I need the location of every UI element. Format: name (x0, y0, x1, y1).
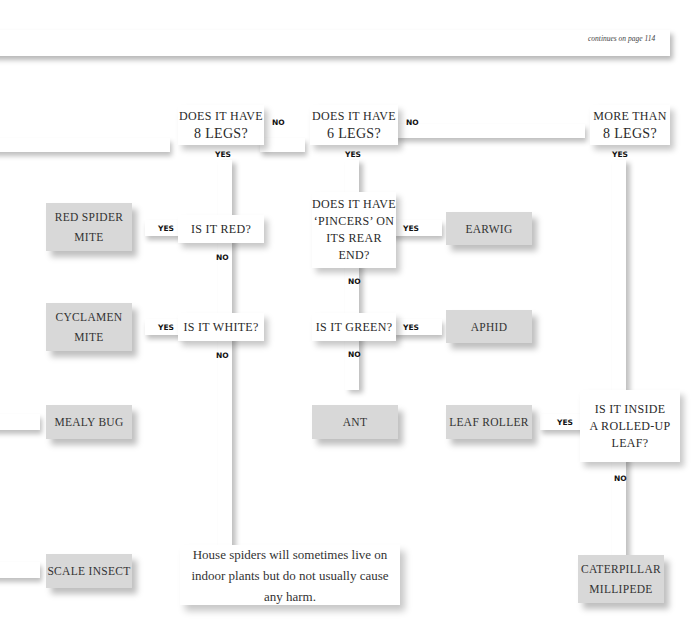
answer-mealy-bug: MEALY BUG (46, 405, 132, 439)
answer-ant: ANT (312, 405, 398, 439)
answer-scale-insect: SCALE INSECT (46, 554, 132, 588)
yes-label-more8: YES (612, 150, 628, 159)
no-label-green: NO (348, 350, 361, 359)
answer-line: RED SPIDER (55, 207, 124, 227)
question-line: END? (338, 247, 369, 264)
no-label-pincers: NO (348, 277, 361, 286)
answer-earwig: EARWIG (446, 212, 532, 245)
answer-line: ANT (343, 412, 368, 432)
question-rolled-up-leaf: IS IT INSIDE A ROLLED-UP LEAF? (580, 390, 680, 462)
house-spider-note: House spiders will sometimes live on ind… (180, 545, 400, 605)
answer-caterpillar-millipede: CATERPILLAR MILLIPEDE (578, 555, 664, 603)
no-label-8legs: NO (272, 118, 285, 127)
question-line: 6 LEGS? (327, 125, 381, 142)
question-line: DOES IT HAVE (179, 108, 263, 125)
question-line: IS IT INSIDE (595, 401, 666, 418)
answer-red-spider-mite: RED SPIDER MITE (46, 203, 132, 251)
no-label-red: NO (216, 253, 229, 262)
answer-line: SCALE INSECT (47, 561, 130, 581)
incoming-connector (0, 138, 170, 152)
no-connector-6legs (395, 124, 585, 138)
question-is-it-white: IS IT WHITE? (178, 313, 264, 341)
question-line: MORE THAN (593, 108, 666, 125)
question-pincers: DOES IT HAVE ‘PINCERS’ ON ITS REAR END? (312, 192, 396, 268)
no-label-6legs: NO (406, 118, 419, 127)
answer-line: EARWIG (465, 219, 512, 239)
answer-line: MEALY BUG (54, 412, 123, 432)
question-line: ‘PINCERS’ ON (314, 213, 394, 230)
answer-cyclamen-mite: CYCLAMEN MITE (46, 303, 132, 351)
question-more-than-8-legs: MORE THAN 8 LEGS? (590, 105, 670, 145)
question-line: IS IT WHITE? (183, 319, 258, 336)
no-label-white: NO (216, 351, 229, 360)
question-line: IS IT GREEN? (316, 319, 393, 336)
yes-label-6legs: YES (345, 150, 361, 159)
question-8-legs: DOES IT HAVE 8 LEGS? (178, 105, 264, 145)
question-line: A ROLLED-UP (590, 418, 671, 435)
yes-label-pincers: YES (403, 224, 419, 233)
answer-line: MITE (74, 227, 103, 247)
question-is-it-green: IS IT GREEN? (312, 313, 396, 341)
continues-note: continues on page 114 (588, 34, 655, 43)
answer-line: MILLIPEDE (589, 579, 652, 599)
question-line: 8 LEGS? (603, 125, 657, 142)
yes-label-8legs: YES (215, 150, 231, 159)
no-label-rolled: NO (614, 474, 627, 483)
answer-line: CYCLAMEN (56, 307, 123, 327)
yes-label-green: YES (403, 323, 419, 332)
question-line: IS IT RED? (191, 221, 251, 238)
question-6-legs: DOES IT HAVE 6 LEGS? (310, 105, 398, 145)
incoming-scale (0, 562, 40, 578)
yes-label-rolled: YES (557, 418, 573, 427)
answer-line: MITE (74, 327, 103, 347)
answer-aphid: APHID (446, 310, 532, 343)
question-line: LEAF? (612, 435, 649, 452)
top-connector-band (0, 30, 670, 56)
no-connector-8legs (260, 138, 305, 152)
yes-connector-more8 (612, 160, 626, 570)
question-line: DOES IT HAVE (312, 196, 396, 213)
question-line: ITS REAR (326, 230, 381, 247)
question-is-it-red: IS IT RED? (178, 215, 264, 243)
yes-label-white: YES (158, 323, 174, 332)
yes-label-red: YES (158, 224, 174, 233)
answer-line: CATERPILLAR (581, 559, 661, 579)
question-line: 8 LEGS? (194, 125, 248, 142)
answer-line: LEAF ROLLER (449, 412, 529, 432)
answer-leaf-roller: LEAF ROLLER (446, 405, 532, 439)
answer-line: APHID (471, 317, 508, 337)
question-line: DOES IT HAVE (312, 108, 396, 125)
note-text: House spiders will sometimes live on ind… (190, 544, 390, 607)
incoming-mealy (0, 414, 40, 430)
